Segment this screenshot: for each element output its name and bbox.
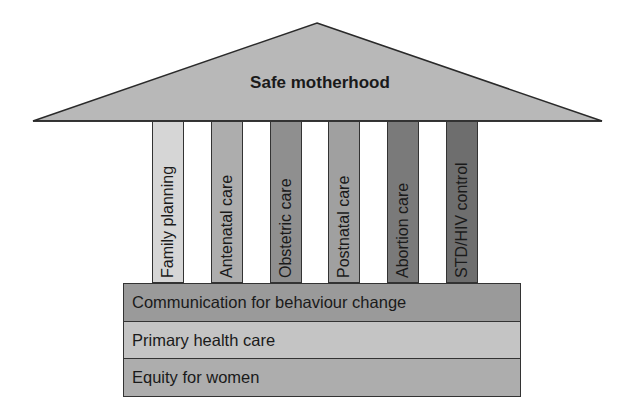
- roof: [0, 0, 618, 130]
- foundation-primary-health-care: Primary health care: [123, 321, 521, 359]
- roof-triangle: [33, 23, 602, 121]
- foundation-label: Equity for women: [132, 368, 259, 387]
- pillar-abortion-care: Abortion care: [387, 121, 419, 283]
- pillar-label: Obstetric care: [276, 178, 296, 278]
- pillar-label: Abortion care: [393, 183, 413, 278]
- foundation-label: Communication for behaviour change: [132, 293, 406, 312]
- pillar-obstetric-care: Obstetric care: [270, 121, 302, 283]
- pillar-antenatal-care: Antenatal care: [211, 121, 243, 283]
- foundation-communication: Communication for behaviour change: [123, 283, 521, 322]
- pillar-label: Postnatal care: [334, 176, 354, 278]
- foundation-label: Primary health care: [132, 331, 275, 350]
- foundation-equity-for-women: Equity for women: [123, 358, 521, 397]
- pillar-label: Antenatal care: [217, 175, 237, 278]
- pillar-postnatal-care: Postnatal care: [328, 121, 360, 283]
- pillar-label: STD/HIV control: [452, 162, 472, 278]
- pillar-std-hiv-control: STD/HIV control: [446, 121, 478, 283]
- pillar-family-planning: Family planning: [152, 121, 184, 283]
- roof-title: Safe motherhood: [200, 73, 440, 93]
- pillar-label: Family planning: [158, 166, 178, 278]
